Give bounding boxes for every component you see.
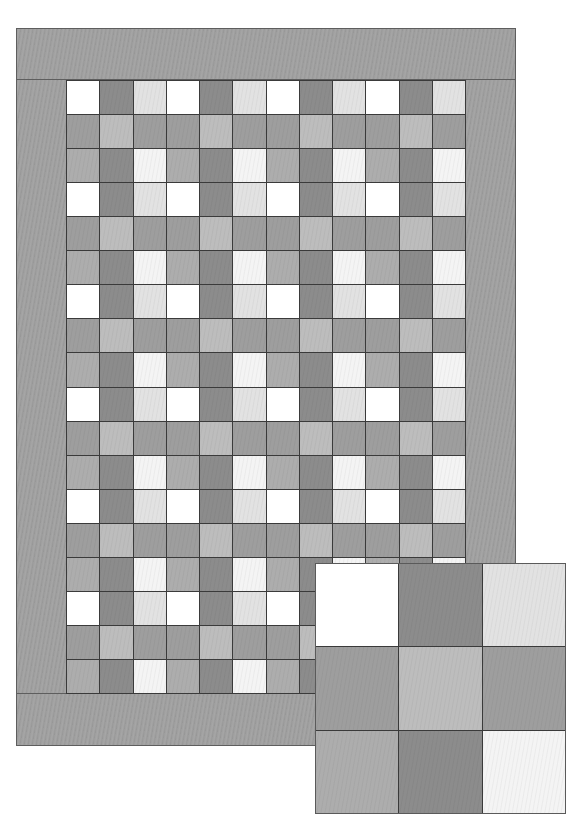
quilt-patch-dark — [200, 388, 232, 421]
quilt-patch-light — [433, 285, 465, 318]
quilt-patch-very-light — [233, 660, 265, 693]
quilt-patch-medium — [134, 626, 166, 659]
quilt-patch-very-light — [333, 353, 365, 386]
inset-patch-dark — [399, 564, 481, 646]
quilt-patch-dark — [400, 251, 432, 284]
inset-patch-dark — [399, 731, 481, 813]
quilt-patch-dark — [100, 285, 132, 318]
quilt-patch-medium — [167, 319, 199, 352]
quilt-patch-medium-light-2 — [267, 660, 299, 693]
quilt-patch-medium-light — [400, 319, 432, 352]
quilt-patch-dark — [100, 149, 132, 182]
quilt-patch-medium — [134, 115, 166, 148]
inset-patch-medium — [483, 647, 565, 729]
quilt-patch-very-light — [233, 251, 265, 284]
quilt-patch-white — [167, 388, 199, 421]
quilt-patch-medium — [167, 524, 199, 557]
quilt-patch-medium-light-2 — [167, 149, 199, 182]
inset-patch-white — [316, 564, 398, 646]
quilt-patch-white — [67, 592, 99, 625]
quilt-patch-medium — [433, 524, 465, 557]
quilt-patch-very-light — [233, 558, 265, 591]
quilt-patch-dark — [300, 490, 332, 523]
quilt-patch-medium — [366, 422, 398, 455]
quilt-patch-dark — [400, 285, 432, 318]
quilt-patch-white — [366, 388, 398, 421]
quilt-patch-white — [267, 388, 299, 421]
quilt-patch-medium-light-2 — [366, 353, 398, 386]
quilt-patch-medium — [267, 115, 299, 148]
quilt-patch-medium — [134, 422, 166, 455]
quilt-patch-dark — [300, 149, 332, 182]
quilt-patch-white — [267, 592, 299, 625]
quilt-patch-white — [67, 490, 99, 523]
quilt-patch-white — [366, 490, 398, 523]
quilt-patch-medium-light — [100, 626, 132, 659]
quilt-patch-white — [267, 490, 299, 523]
quilt-patch-medium-light-2 — [67, 660, 99, 693]
quilt-patch-medium-light-2 — [67, 558, 99, 591]
quilt-patch-medium-light — [400, 217, 432, 250]
quilt-patch-light — [333, 388, 365, 421]
quilt-patch-very-light — [233, 456, 265, 489]
quilt-patch-medium — [67, 319, 99, 352]
quilt-patch-very-light — [134, 353, 166, 386]
quilt-patch-medium-light-2 — [267, 558, 299, 591]
quilt-patch-light — [233, 285, 265, 318]
quilt-patch-white — [366, 81, 398, 114]
quilt-patch-medium-light — [300, 524, 332, 557]
quilt-patch-light — [134, 81, 166, 114]
quilt-patch-medium — [67, 626, 99, 659]
quilt-patch-very-light — [134, 558, 166, 591]
quilt-patch-medium — [366, 319, 398, 352]
quilt-patch-dark — [400, 81, 432, 114]
quilt-patch-medium-light — [200, 115, 232, 148]
quilt-patch-light — [134, 592, 166, 625]
quilt-patch-medium — [366, 217, 398, 250]
quilt-patch-dark — [300, 388, 332, 421]
quilt-patch-white — [267, 285, 299, 318]
quilt-patch-light — [333, 285, 365, 318]
quilt-patch-medium — [433, 422, 465, 455]
quilt-patch-medium — [267, 626, 299, 659]
quilt-patch-medium-light-2 — [366, 456, 398, 489]
quilt-patch-white — [167, 81, 199, 114]
quilt-patch-medium-light — [200, 319, 232, 352]
quilt-patch-medium — [233, 115, 265, 148]
quilt-patch-white — [167, 490, 199, 523]
quilt-patch-medium — [333, 524, 365, 557]
quilt-patch-dark — [100, 456, 132, 489]
quilt-patch-medium — [433, 319, 465, 352]
block-detail-inset — [315, 563, 566, 814]
quilt-patch-medium-light-2 — [67, 456, 99, 489]
quilt-patch-white — [67, 285, 99, 318]
quilt-patch-medium-light — [400, 524, 432, 557]
inset-patch-medium-light-2 — [316, 731, 398, 813]
quilt-patch-medium-light — [300, 217, 332, 250]
quilt-patch-white — [67, 183, 99, 216]
quilt-patch-dark — [100, 81, 132, 114]
quilt-patch-medium — [167, 217, 199, 250]
quilt-patch-medium-light-2 — [267, 456, 299, 489]
quilt-patch-medium-light-2 — [267, 251, 299, 284]
quilt-patch-medium — [134, 217, 166, 250]
quilt-patch-dark — [100, 251, 132, 284]
quilt-patch-dark — [200, 285, 232, 318]
quilt-patch-white — [167, 592, 199, 625]
quilt-patch-medium — [233, 524, 265, 557]
quilt-patch-medium-light-2 — [67, 353, 99, 386]
quilt-patch-dark — [200, 251, 232, 284]
quilt-patch-white — [67, 81, 99, 114]
quilt-patch-very-light — [134, 456, 166, 489]
quilt-patch-dark — [400, 149, 432, 182]
quilt-patch-very-light — [433, 251, 465, 284]
quilt-patch-dark — [300, 183, 332, 216]
quilt-patch-medium-light-2 — [267, 149, 299, 182]
quilt-patch-medium-light — [200, 524, 232, 557]
quilt-patch-dark — [400, 353, 432, 386]
quilt-patch-light — [233, 388, 265, 421]
quilt-patch-medium-light — [100, 319, 132, 352]
quilt-patch-medium-light-2 — [167, 558, 199, 591]
quilt-patch-medium-light — [400, 115, 432, 148]
quilt-patch-light — [333, 490, 365, 523]
